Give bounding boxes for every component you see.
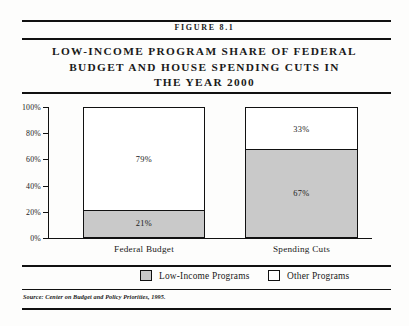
y-axis-tick-label: 80% [7,129,41,138]
legend-item-other-programs: Other Programs [268,270,349,281]
stacked-bar: 79%21% [83,107,205,238]
bar-segment-other-programs: 79% [84,108,204,211]
y-axis-tick [43,238,48,239]
y-axis-tick [43,159,48,160]
rule-above-legend [22,265,391,267]
y-axis-tick-label: 60% [7,155,41,164]
stacked-bar: 33%67% [245,107,358,238]
legend-label-low-income: Low-Income Programs [159,271,250,281]
legend-swatch-low-income [140,270,152,281]
legend-item-low-income-programs: Low-Income Programs [140,270,250,281]
y-axis-tick [43,133,48,134]
rule-bottom [22,308,391,310]
figure-number-label: FIGURE 8.1 [0,23,409,32]
bar-value-label: 67% [293,189,309,198]
chart-plot-area: 0%20%40%60%80%100% 79%21%33%67% Federal … [48,107,372,238]
rule-top [22,20,391,22]
title-line-2: BUDGET AND HOUSE SPENDING CUTS IN [30,60,379,76]
rule-under-figure-number [22,38,391,40]
x-axis-category-label: Federal Budget [83,244,205,254]
y-axis-tick-label: 0% [7,234,41,243]
bar-segment-other-programs: 33% [246,108,357,151]
y-axis-tick-label: 20% [7,207,41,216]
bar-value-label: 21% [136,219,152,228]
title-line-3: THE YEAR 2000 [30,75,379,91]
bar-segment-low-income-programs: 21% [84,210,204,238]
y-axis-tick-label: 40% [7,181,41,190]
y-axis-tick [43,212,48,213]
y-axis-tick [43,186,48,187]
rule-under-title [22,92,391,94]
y-axis-tick-label: 100% [7,103,41,112]
bar-segment-low-income-programs: 67% [246,149,357,237]
bar-value-label: 79% [136,155,152,164]
legend-label-other: Other Programs [287,271,349,281]
chart-legend: Low-Income Programs Other Programs [22,270,391,286]
bar-value-label: 33% [293,125,309,134]
x-axis-category-label: Spending Cuts [245,244,358,254]
title-line-1: LOW-INCOME PROGRAM SHARE OF FEDERAL [30,44,379,60]
legend-swatch-other [268,270,280,281]
source-note: Source: Center on Budget and Policy Prio… [23,293,166,300]
x-axis-line [48,238,372,239]
rule-below-legend [22,289,391,290]
page-title: LOW-INCOME PROGRAM SHARE OF FEDERAL BUDG… [30,44,379,91]
figure-container: FIGURE 8.1 LOW-INCOME PROGRAM SHARE OF F… [0,0,409,326]
y-axis-line [48,107,49,238]
y-axis-tick [43,107,48,108]
